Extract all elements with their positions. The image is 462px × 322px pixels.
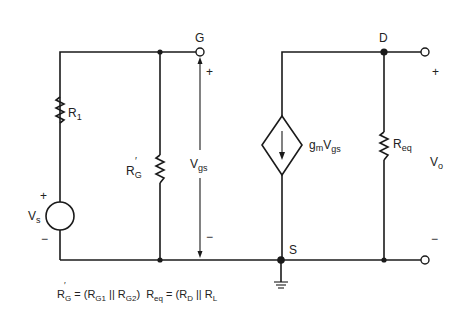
equivalence-formula: RG = (RG1 || RG2)Req = (RD || RL — [57, 288, 218, 303]
vo-label: Vo — [430, 155, 443, 171]
vgs-up-arrowhead-icon — [198, 57, 203, 64]
gate-label: G — [195, 31, 204, 45]
rg-bottom-junction-dot — [157, 257, 162, 262]
source-label: S — [289, 243, 297, 257]
vgs-plus: + — [206, 65, 213, 79]
drain-top-wire — [282, 52, 421, 116]
rg-label: RG — [126, 164, 142, 180]
output-top-terminal — [421, 48, 429, 56]
gate-junction-dot — [157, 49, 162, 54]
rg-prime-mark: ′ — [135, 156, 137, 167]
circuit-diagram: G D S R1 RG ′ + Vs − + Vgs − gmVgs Req +… — [0, 0, 462, 322]
drain-label: D — [379, 31, 388, 45]
vs-label: Vs — [28, 209, 41, 225]
drain-junction-dot — [380, 48, 387, 55]
req-resistor — [380, 132, 388, 160]
vs-plus: + — [40, 189, 47, 203]
r1-label: R1 — [68, 106, 82, 122]
vs-minus: − — [41, 232, 48, 246]
vs-voltage-source-icon — [46, 202, 74, 230]
formula-prime-mark: ′ — [64, 280, 66, 290]
current-arrowhead-icon — [279, 152, 285, 160]
gm-vgs-label: gmVgs — [309, 138, 341, 154]
vo-minus: − — [431, 232, 438, 246]
gate-terminal — [196, 48, 204, 56]
vgs-down-arrowhead-icon — [198, 251, 203, 258]
req-bottom-junction-dot — [381, 257, 386, 262]
output-bottom-terminal — [421, 256, 429, 264]
req-label: Req — [393, 137, 412, 153]
vo-plus: + — [432, 65, 439, 79]
rg-resistor — [156, 155, 164, 183]
vgs-label: Vgs — [190, 157, 208, 173]
vgs-minus: − — [206, 230, 213, 244]
